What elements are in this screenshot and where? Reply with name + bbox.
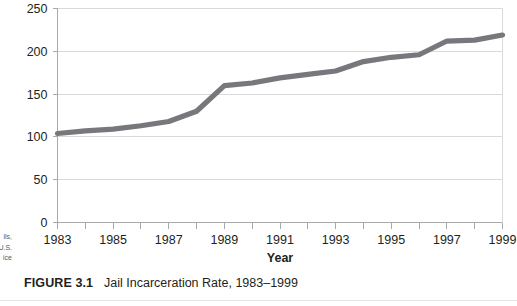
x-tick-label-1997: 1997 [433, 233, 461, 247]
chart-plot-area: 0501001502002501983198519871989199119931… [0, 0, 517, 270]
x-tick-label-1985: 1985 [99, 233, 127, 247]
x-tick-label-1993: 1993 [322, 233, 350, 247]
y-tick-label-200: 200 [27, 45, 48, 59]
caption-text: FIGURE 3.1Jail Incarceration Rate, 1983–… [24, 276, 298, 290]
data-series-0 [58, 35, 503, 133]
figure-caption: FIGURE 3.1Jail Incarceration Rate, 1983–… [0, 276, 517, 306]
source-note-line-1: ils, [0, 232, 12, 243]
source-note-line-2: U.S. [0, 243, 12, 254]
caption-label: FIGURE 3.1 [24, 276, 93, 290]
figure-container: 0501001502002501983198519871989199119931… [0, 0, 517, 306]
x-tick-label-1995: 1995 [377, 233, 405, 247]
y-tick-label-0: 0 [41, 216, 48, 230]
x-axis-title: Year [267, 251, 294, 265]
x-tick-label-1983: 1983 [44, 233, 72, 247]
x-tick-label-1989: 1989 [210, 233, 238, 247]
y-tick-label-100: 100 [27, 130, 48, 144]
x-tick-label-1999: 1999 [489, 233, 517, 247]
caption-title: Jail Incarceration Rate, 1983–1999 [104, 276, 298, 290]
source-note-line-3: ice [0, 253, 12, 264]
y-tick-label-150: 150 [27, 88, 48, 102]
source-note: ils, U.S. ice [0, 232, 12, 264]
line-chart: 0501001502002501983198519871989199119931… [0, 0, 517, 270]
y-tick-label-250: 250 [27, 2, 48, 16]
x-tick-label-1987: 1987 [155, 233, 183, 247]
y-tick-label-50: 50 [34, 173, 48, 187]
x-tick-label-1991: 1991 [266, 233, 294, 247]
caption-divider [0, 300, 517, 301]
